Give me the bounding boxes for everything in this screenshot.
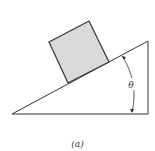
- figure-caption: (a): [0, 139, 155, 149]
- arrowhead-top-icon: [122, 56, 126, 60]
- incline-diagram: θ: [0, 0, 155, 151]
- block: [49, 21, 109, 83]
- arrowhead-bottom-icon: [130, 109, 134, 113]
- angle-label: θ: [128, 80, 134, 90]
